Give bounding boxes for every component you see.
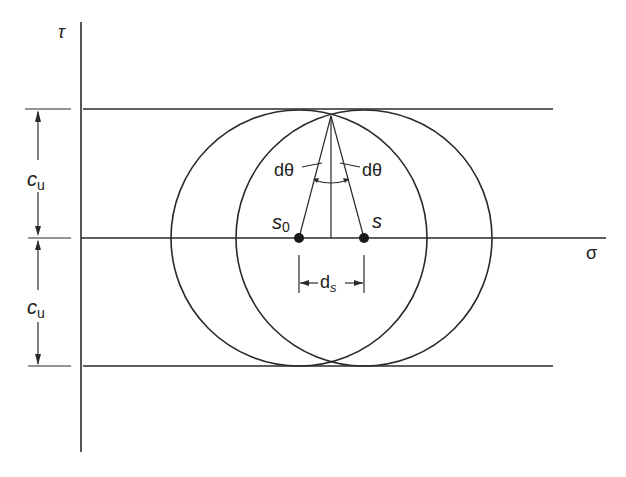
point-s-label: s: [372, 210, 382, 232]
dtheta-right-leader: [340, 163, 360, 167]
ds-arrow-right-icon: [354, 280, 363, 286]
radius-line-s0: [299, 116, 331, 238]
lower-arrow-up-icon: [35, 240, 41, 250]
upper-arrow-up-icon: [35, 110, 41, 122]
ds-arrow-left-icon: [300, 280, 309, 286]
point-s: [359, 233, 369, 243]
upper-arrow-down-icon: [35, 226, 41, 236]
dtheta-right-label: dθ: [362, 160, 382, 180]
dtheta-left-leader: [302, 163, 322, 167]
ds-label: ds: [320, 272, 337, 295]
upper-cu-label: cu: [27, 168, 45, 193]
sigma-axis-label: σ: [586, 243, 597, 263]
point-s0: [294, 233, 304, 243]
dtheta-left-label: dθ: [274, 160, 294, 180]
point-s0-label: s0: [272, 211, 290, 235]
tau-axis-label: τ: [58, 22, 66, 42]
lower-cu-label: cu: [27, 296, 45, 321]
radius-line-s: [331, 116, 364, 238]
lower-arrow-down-icon: [35, 354, 41, 365]
mohr-circle-diagram: τ σ cu cu dθ dθ s0 s ds: [0, 0, 626, 477]
